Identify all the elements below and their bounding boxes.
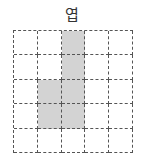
grid-cell [109,31,133,55]
grid-cell [14,31,38,55]
grid-cell [85,31,109,55]
grid-cell [109,80,133,104]
grid-cell [38,129,62,153]
grid-cell-filled [62,31,86,55]
grid-cell [14,55,38,79]
grid-cell [85,129,109,153]
grid-cell [14,80,38,104]
grid-cell [14,129,38,153]
grid-cell [14,104,38,128]
grid-cell [109,104,133,128]
grid-cell-filled [38,80,62,104]
grid-cell [38,31,62,55]
grid-cell-filled [62,55,86,79]
grid-cell [109,129,133,153]
grid-cell [85,80,109,104]
pattern-grid [13,30,133,153]
grid-cell [109,55,133,79]
grid-cell [38,55,62,79]
grid-cell [85,55,109,79]
grid-cell-filled [38,104,62,128]
grid-cell-filled [62,80,86,104]
grid-cell [85,104,109,128]
glyph-title: 엽 [0,6,143,24]
grid-cell-filled [62,104,86,128]
grid-cell [62,129,86,153]
